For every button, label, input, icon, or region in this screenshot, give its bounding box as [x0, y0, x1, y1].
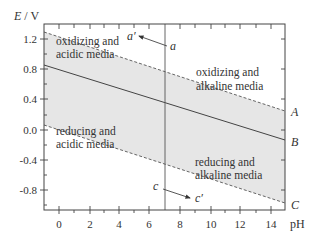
x-tick-label: 10	[206, 218, 218, 230]
y-tick-label: 0.4	[23, 93, 37, 105]
x-axis-title: pH	[290, 217, 305, 231]
y-tick-labels: 1.2 0.8 0.4 0.0 -0.4 -0.8	[20, 33, 38, 196]
arrow-c-to-c-prime	[163, 189, 190, 198]
x-tick-label: 8	[177, 218, 183, 230]
y-tick-label: -0.4	[20, 154, 38, 166]
x-tick-label: 14	[266, 218, 278, 230]
line-label-C: C	[291, 198, 300, 212]
pourbaix-chart: 1.2 0.8 0.4 0.0 -0.4 -0.8 0 2 4 6 8 10 1…	[0, 0, 315, 243]
y-tick-label: 1.2	[23, 33, 37, 45]
line-label-B: B	[291, 135, 299, 149]
annotation-c-prime: c′	[195, 191, 203, 205]
region-label-oxidizing-acidic-1: oxidizing and	[56, 35, 119, 48]
arrow-a-to-a-prime	[139, 36, 167, 46]
x-tick-label: 0	[56, 218, 62, 230]
y-tick-label: 0.8	[23, 63, 37, 75]
x-tick-label: 6	[146, 218, 152, 230]
region-label-oxidizing-alkaline-1: oxidizing and	[196, 66, 259, 79]
y-tick-label: -0.8	[20, 184, 38, 196]
region-label-oxidizing-alkaline-2: alkaline media	[196, 80, 263, 92]
x-tick-label: 2	[87, 218, 93, 230]
region-label-oxidizing-acidic-2: acidic media	[56, 48, 114, 60]
annotation-c: c	[153, 179, 159, 193]
y-tick-label: 0.0	[23, 124, 37, 136]
y-axis-title: E / V	[13, 9, 39, 23]
region-label-reducing-alkaline-2: alkaline media	[195, 169, 262, 181]
annotation-a-prime: a′	[127, 29, 136, 43]
region-label-reducing-alkaline-1: reducing and	[195, 156, 255, 169]
annotation-a: a	[170, 39, 176, 53]
x-tick-label: 4	[116, 218, 122, 230]
x-tick-label: 12	[235, 218, 246, 230]
x-tick-labels: 0 2 4 6 8 10 12 14	[56, 218, 277, 230]
region-label-reducing-acidic-1: reducing and	[56, 125, 116, 138]
line-label-A: A	[290, 105, 299, 119]
region-label-reducing-acidic-2: acidic media	[56, 138, 114, 150]
